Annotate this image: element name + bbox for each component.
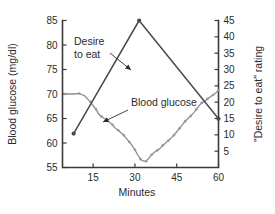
right-tick-label: 5 — [224, 146, 230, 157]
bottom-tick-label: 45 — [171, 172, 183, 183]
left-tick-label: 55 — [46, 162, 58, 173]
bottom-axis-ticks: 15304560 — [88, 164, 225, 183]
right-tick-label: 40 — [224, 31, 236, 42]
data-point-glucose — [200, 101, 203, 104]
bottom-tick-label: 60 — [213, 172, 225, 183]
data-point-glucose — [64, 93, 67, 96]
data-point-glucose — [150, 153, 153, 156]
right-tick-label: 20 — [224, 97, 236, 108]
data-point-glucose — [139, 158, 142, 161]
data-point-desire — [216, 117, 220, 121]
x-axis-title: Minutes — [119, 186, 156, 198]
annotation-arrowhead — [125, 65, 131, 70]
y-axis-title: Blood glucose (mg/dl) — [6, 43, 18, 145]
data-point-glucose — [189, 115, 192, 118]
data-point-glucose — [117, 129, 120, 132]
right-tick-label: 15 — [224, 113, 236, 124]
data-point-glucose — [212, 94, 215, 97]
data-point-glucose — [111, 124, 114, 127]
left-tick-label: 65 — [46, 113, 58, 124]
blood-glucose-desire-chart: 85807570656055 45403530252015105 1530456… — [0, 0, 275, 214]
bottom-tick-label: 30 — [129, 172, 141, 183]
right-tick-label: 30 — [224, 64, 236, 75]
annotation-text: to eat — [74, 48, 100, 60]
data-point-desire — [72, 131, 76, 135]
left-axis-ticks: 85807570656055 — [46, 15, 66, 173]
left-tick-label: 80 — [46, 40, 58, 51]
left-tick-label: 60 — [46, 138, 58, 149]
bottom-tick-label: 15 — [88, 172, 100, 183]
data-point-glucose — [128, 141, 131, 144]
data-point-glucose — [95, 108, 98, 111]
data-point-glucose — [217, 89, 220, 92]
y2-axis-title: "Desire to eat" rating — [252, 46, 264, 142]
annotation-desire-to-eat: Desireto eat — [74, 35, 131, 70]
data-point-glucose — [195, 108, 198, 111]
annotation-blood-glucose: Blood glucose — [103, 96, 197, 122]
data-point-glucose — [167, 139, 170, 142]
data-point-glucose — [134, 149, 137, 152]
right-axis-ticks: 45403530252015105 — [215, 15, 236, 157]
annotation-text: Blood glucose — [131, 96, 197, 108]
data-point-glucose — [184, 120, 187, 123]
annotation-text: Desire — [74, 35, 105, 47]
data-point-glucose — [178, 127, 181, 130]
data-point-glucose — [173, 134, 176, 137]
data-point-glucose — [78, 92, 81, 95]
right-tick-label: 25 — [224, 80, 236, 91]
data-point-glucose — [206, 98, 209, 101]
data-point-glucose — [100, 115, 103, 118]
chart-figure: 85807570656055 45403530252015105 1530456… — [0, 0, 275, 214]
data-point-glucose — [122, 134, 125, 137]
right-tick-label: 45 — [224, 15, 236, 26]
left-tick-label: 70 — [46, 89, 58, 100]
left-tick-label: 75 — [46, 64, 58, 75]
left-tick-label: 85 — [46, 15, 58, 26]
data-point-glucose — [145, 160, 148, 163]
right-tick-label: 35 — [224, 48, 236, 59]
right-tick-label: 10 — [224, 129, 236, 140]
data-point-desire — [137, 18, 141, 22]
data-point-glucose — [161, 144, 164, 147]
annotation-layer: Desireto eatBlood glucose — [74, 35, 197, 122]
data-point-glucose — [156, 149, 159, 152]
